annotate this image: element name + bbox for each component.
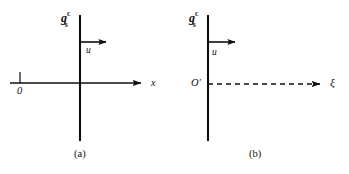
field-label-a-subscript: s [65, 20, 68, 29]
panel-a-drawing [0, 0, 174, 174]
velocity-label-a: u [86, 46, 91, 56]
field-label-b-superscript: c [195, 9, 198, 18]
xi-axis-label-b: ξ [330, 77, 335, 88]
x-axis-label-a: x [151, 78, 155, 88]
figure-panel-a: gcs 0 x u (a) [0, 0, 174, 174]
figure-root: gcs 0 x u (a) [0, 0, 349, 174]
field-label-a-superscript: c [67, 9, 70, 18]
field-label-b-subscript: s [193, 20, 196, 29]
field-label-b: gcs [189, 11, 201, 27]
origin-label-a: 0 [17, 86, 22, 97]
panel-caption-b: (b) [249, 149, 261, 160]
velocity-label-b: u [212, 48, 217, 58]
origin-label-b: O′ [191, 78, 201, 89]
field-label-a: gcs [61, 11, 73, 27]
panel-caption-a: (a) [74, 149, 86, 160]
figure-panel-b: gcs O′ ξ u (b) [175, 0, 349, 174]
panel-a-svg [0, 0, 174, 174]
